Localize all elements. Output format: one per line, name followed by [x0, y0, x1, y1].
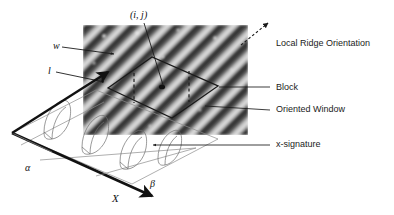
width-w-label: w	[53, 41, 60, 51]
point-ij-label: (i, j)	[130, 10, 147, 20]
plane-edge-guides	[12, 133, 196, 176]
block-label: Block	[276, 83, 298, 92]
oriented-window-label: Oriented Window	[276, 105, 345, 114]
center-point-marker	[159, 85, 165, 90]
length-l-label: l	[48, 66, 51, 76]
figure-root: (i, j) w l α β X Local Ridge Orientation…	[0, 0, 394, 215]
x-signature-label: x-signature	[276, 140, 321, 149]
alpha-label: α	[25, 163, 30, 173]
fingerprint-image	[83, 25, 248, 135]
x-axis-label: X	[112, 193, 119, 204]
beta-label: β	[150, 179, 155, 189]
local-ridge-orientation-label: Local Ridge Orientation	[276, 39, 370, 48]
